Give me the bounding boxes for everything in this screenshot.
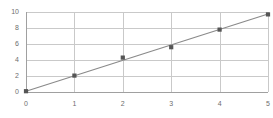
data-point-marker (24, 89, 28, 93)
data-point-marker (218, 28, 222, 32)
data-point-marker (169, 45, 173, 49)
y-tick-label: 0 (0, 88, 19, 95)
x-tick-label: 1 (66, 100, 82, 107)
trend-line (26, 14, 268, 91)
x-tick-label: 5 (260, 100, 273, 107)
data-point-marker (121, 56, 125, 60)
x-tick-label: 4 (212, 100, 228, 107)
y-tick-label: 6 (0, 40, 19, 47)
trend-line-path (26, 14, 268, 91)
data-point-marker (266, 12, 270, 16)
y-tick-label: 2 (0, 72, 19, 79)
plot-area (0, 0, 273, 118)
x-tick-label: 3 (163, 100, 179, 107)
x-tick-label: 0 (18, 100, 34, 107)
data-point-marker (72, 74, 76, 78)
y-tick-label: 10 (0, 8, 19, 15)
scatter-chart: 0246810 012345 (0, 0, 273, 118)
x-tick-label: 2 (115, 100, 131, 107)
y-tick-label: 8 (0, 24, 19, 31)
y-tick-label: 4 (0, 56, 19, 63)
